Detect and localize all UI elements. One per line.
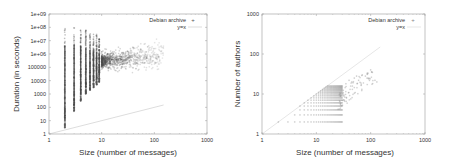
- x-axis-label: Size (number of messages): [296, 148, 394, 157]
- y-equals-x-line: [49, 105, 164, 134]
- x-tick-label: 10: [99, 137, 105, 143]
- legend-label-debian: Debian archive: [368, 17, 405, 23]
- y-tick-label: 1000: [247, 11, 259, 17]
- duration-chart-svg: 11010010001101001000100001000001e+061e+0…: [0, 0, 225, 166]
- y-tick-label: 10000: [31, 78, 46, 84]
- x-tick-label: 1: [260, 137, 263, 143]
- debian-archive-points: [278, 69, 378, 123]
- x-tick-label: 100: [366, 137, 375, 143]
- legend: Debian archive + y=x: [368, 17, 421, 30]
- legend: Debian archive + y=x: [149, 17, 202, 30]
- y-tick-label: 1: [43, 131, 46, 137]
- axis-ticks: 11010010001101001000: [247, 11, 431, 143]
- legend-label-debian: Debian archive: [149, 17, 186, 23]
- x-tick-label: 1000: [201, 137, 213, 143]
- y-axis-label: Number of authors: [233, 41, 242, 107]
- x-axis-label: Size (number of messages): [79, 148, 177, 157]
- duration-vs-size-chart: 11010010001101001000100001000001e+061e+0…: [0, 0, 225, 166]
- y-axis-label: Duration (in seconds): [12, 36, 21, 112]
- y-tick-label: 1e+07: [31, 38, 46, 44]
- legend-label-yx: y=x: [177, 24, 186, 30]
- x-tick-label: 100: [150, 137, 159, 143]
- authors-chart-svg: 11010010001101001000 Size (number of mes…: [225, 0, 450, 166]
- plot-frame: [49, 14, 207, 134]
- x-tick-label: 10: [313, 137, 319, 143]
- y-tick-label: 1000: [34, 91, 46, 97]
- authors-vs-size-chart: 11010010001101001000 Size (number of mes…: [225, 0, 450, 166]
- x-tick-label: 1000: [419, 137, 431, 143]
- y-tick-label: 100000: [28, 64, 46, 70]
- y-tick-label: 100: [37, 104, 46, 110]
- debian-archive-points: [64, 27, 165, 128]
- y-tick-label: 1e+08: [31, 24, 46, 30]
- y-tick-label: 100: [250, 51, 259, 57]
- y-tick-label: 1e+06: [31, 51, 46, 57]
- plus-marker-icon: +: [191, 17, 195, 23]
- y-tick-label: 1e+09: [31, 11, 46, 17]
- x-tick-label: 1: [47, 137, 50, 143]
- y-tick-label: 1: [256, 131, 259, 137]
- y-tick-label: 10: [40, 118, 46, 124]
- axis-ticks: 11010010001101001000100001000001e+061e+0…: [28, 11, 213, 143]
- y-tick-label: 10: [253, 91, 259, 97]
- plus-marker-icon: +: [411, 17, 415, 23]
- legend-label-yx: y=x: [396, 24, 405, 30]
